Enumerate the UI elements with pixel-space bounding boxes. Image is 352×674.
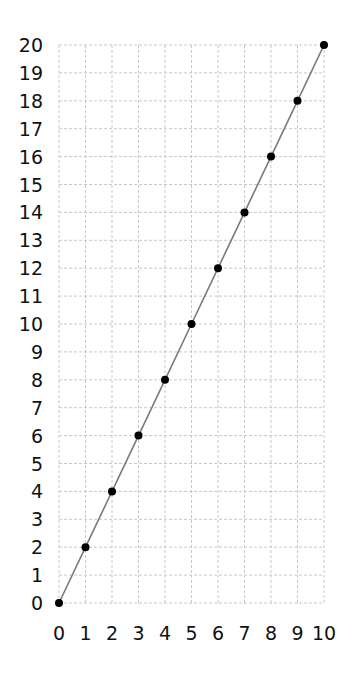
y-tick-label: 2 xyxy=(31,536,43,558)
x-tick-label: 9 xyxy=(291,622,303,644)
y-tick-label: 6 xyxy=(31,425,43,447)
y-tick-label: 17 xyxy=(19,118,43,140)
y-tick-label: 5 xyxy=(31,453,43,475)
y-tick-label: 18 xyxy=(19,90,43,112)
y-tick-label: 14 xyxy=(19,201,43,223)
data-point-marker xyxy=(214,264,222,272)
x-axis-tick-labels: 012345678910 xyxy=(53,622,336,644)
data-point-marker xyxy=(267,153,275,161)
x-tick-label: 2 xyxy=(106,622,118,644)
y-tick-label: 7 xyxy=(31,397,43,419)
y-tick-label: 4 xyxy=(31,480,43,502)
data-point-marker xyxy=(188,320,196,328)
data-point-marker xyxy=(55,599,63,607)
y-tick-label: 13 xyxy=(19,229,43,251)
y-tick-label: 1 xyxy=(31,564,43,586)
y-tick-label: 20 xyxy=(19,34,43,56)
data-point-marker xyxy=(108,487,116,495)
data-point-marker xyxy=(161,376,169,384)
x-tick-label: 0 xyxy=(53,622,65,644)
x-tick-label: 4 xyxy=(159,622,171,644)
y-tick-label: 19 xyxy=(19,62,43,84)
y-tick-label: 9 xyxy=(31,341,43,363)
y-tick-label: 11 xyxy=(19,285,43,307)
y-tick-label: 8 xyxy=(31,369,43,391)
x-tick-label: 5 xyxy=(185,622,197,644)
x-tick-label: 3 xyxy=(132,622,144,644)
x-tick-label: 8 xyxy=(265,622,277,644)
y-axis-tick-labels: 01234567891011121314151617181920 xyxy=(19,34,43,614)
x-tick-label: 7 xyxy=(238,622,250,644)
y-tick-label: 10 xyxy=(19,313,43,335)
y-tick-label: 16 xyxy=(19,146,43,168)
x-tick-label: 10 xyxy=(312,622,336,644)
line-chart: 01234567891011121314151617181920 0123456… xyxy=(0,0,352,674)
y-tick-label: 12 xyxy=(19,257,43,279)
data-point-marker xyxy=(241,208,249,216)
data-point-marker xyxy=(320,41,328,49)
y-tick-label: 0 xyxy=(31,592,43,614)
y-tick-label: 3 xyxy=(31,508,43,530)
data-point-marker xyxy=(82,543,90,551)
data-point-marker xyxy=(135,432,143,440)
data-point-marker xyxy=(294,97,302,105)
y-tick-label: 15 xyxy=(19,174,43,196)
x-tick-label: 1 xyxy=(79,622,91,644)
x-tick-label: 6 xyxy=(212,622,224,644)
